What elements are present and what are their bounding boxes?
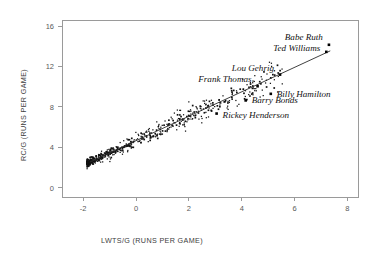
- data-point: [210, 103, 211, 104]
- data-point: [141, 133, 142, 134]
- data-point: [162, 125, 163, 126]
- data-point: [171, 125, 172, 126]
- data-point: [92, 162, 94, 164]
- data-point: [209, 101, 211, 103]
- data-point: [281, 68, 282, 69]
- data-point: [104, 152, 106, 154]
- data-point: [192, 113, 193, 114]
- data-point: [252, 80, 253, 81]
- highlighted-data-point: [215, 112, 218, 115]
- data-point: [195, 106, 196, 107]
- data-point: [232, 93, 233, 94]
- data-point: [179, 118, 181, 120]
- data-point: [261, 76, 262, 77]
- data-point: [272, 74, 274, 76]
- data-point: [111, 147, 112, 148]
- y-axis-tick-labels: 0481216: [46, 22, 54, 193]
- data-point: [179, 124, 180, 125]
- data-point: [233, 90, 235, 92]
- data-point: [279, 70, 281, 72]
- data-point: [205, 112, 206, 113]
- data-point: [255, 88, 256, 89]
- data-point: [253, 87, 254, 88]
- data-point: [137, 141, 138, 142]
- data-point: [278, 76, 279, 77]
- data-point: [183, 114, 184, 115]
- data-point: [261, 79, 262, 80]
- point-label: Lou Gehrig: [231, 63, 275, 73]
- data-point: [150, 137, 152, 139]
- data-point: [222, 95, 223, 96]
- highlighted-data-point: [279, 73, 282, 76]
- data-point: [153, 135, 155, 137]
- data-point: [179, 122, 180, 123]
- data-point: [110, 158, 111, 159]
- data-point: [232, 99, 233, 100]
- data-point: [170, 126, 171, 127]
- data-point: [201, 118, 202, 119]
- data-point: [201, 116, 202, 117]
- data-point: [127, 151, 128, 152]
- data-point: [158, 128, 159, 129]
- data-point: [112, 154, 113, 155]
- data-point: [256, 90, 257, 91]
- x-tick-label: 2: [187, 204, 191, 213]
- data-point: [204, 103, 205, 104]
- data-point: [129, 146, 130, 147]
- data-point: [137, 138, 138, 139]
- data-point: [254, 90, 255, 91]
- data-point: [219, 104, 220, 105]
- data-point: [161, 134, 162, 135]
- data-point: [252, 92, 254, 94]
- data-point: [237, 105, 238, 106]
- data-point: [122, 150, 123, 151]
- data-point: [254, 75, 255, 76]
- data-point: [162, 130, 164, 132]
- data-point: [99, 159, 100, 160]
- data-point: [143, 139, 145, 141]
- plot-canvas: -202468 0481216 Babe RuthTed WilliamsLou…: [0, 0, 379, 259]
- y-tick-label: 8: [50, 103, 54, 112]
- point-label: Babe Ruth: [285, 32, 324, 42]
- data-point: [179, 126, 180, 127]
- data-point: [160, 131, 161, 132]
- data-point: [87, 164, 88, 165]
- data-point: [97, 161, 98, 162]
- data-point: [211, 100, 212, 101]
- data-point: [123, 140, 124, 141]
- data-point: [107, 158, 108, 159]
- data-point: [100, 153, 102, 155]
- data-point: [174, 112, 175, 113]
- data-point: [245, 96, 246, 97]
- data-point: [107, 155, 108, 156]
- data-point: [86, 168, 87, 169]
- data-point: [108, 149, 109, 150]
- y-tick-label: 0: [50, 184, 54, 193]
- data-point: [214, 106, 215, 107]
- data-point: [186, 121, 187, 122]
- data-point: [274, 74, 276, 76]
- data-point: [212, 108, 213, 109]
- data-point: [110, 157, 112, 159]
- data-point: [192, 105, 194, 107]
- data-point: [169, 127, 170, 128]
- data-point: [125, 146, 126, 147]
- data-point: [98, 154, 99, 155]
- data-point: [117, 150, 119, 152]
- y-axis-title: RC/G (RUNS PER GAME): [19, 69, 28, 161]
- data-point: [131, 147, 132, 148]
- data-point: [152, 129, 153, 130]
- data-point: [87, 161, 89, 163]
- data-point: [108, 156, 109, 157]
- data-point: [159, 133, 160, 134]
- data-point: [150, 135, 151, 136]
- data-point: [262, 89, 263, 90]
- data-point: [227, 101, 228, 102]
- data-point: [190, 109, 191, 110]
- point-label: Barry Bonds: [252, 95, 299, 105]
- scatter-plot-figure: -202468 0481216 Babe RuthTed WilliamsLou…: [0, 0, 379, 259]
- data-point: [160, 127, 161, 128]
- data-point: [158, 125, 159, 126]
- point-label: Ted Williams: [273, 43, 320, 53]
- data-point: [188, 101, 189, 102]
